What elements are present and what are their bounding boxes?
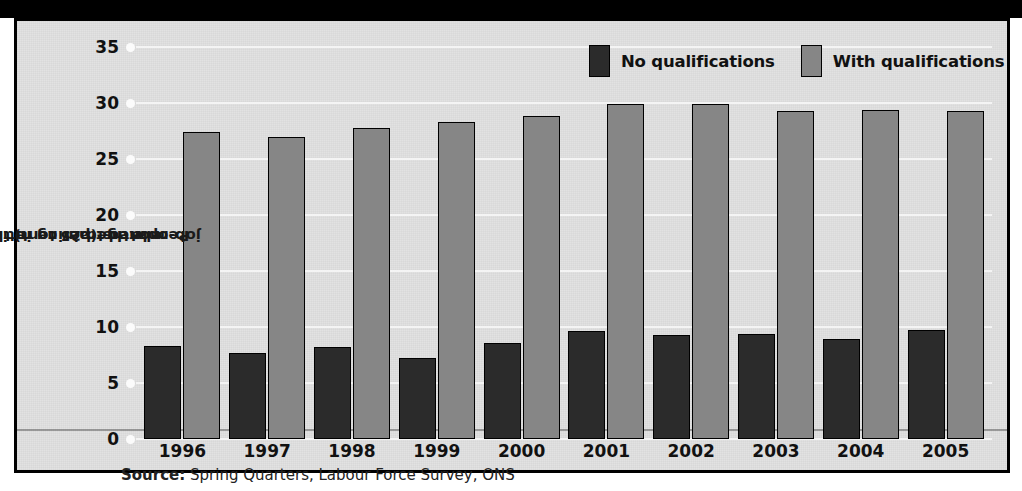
bar-no-qualifications[interactable] (399, 358, 436, 439)
bar-with-qualifications[interactable] (862, 110, 899, 439)
x-axis-label: 1998 (310, 441, 395, 461)
source-note: Source: Spring Quarters, Labour Force Su… (121, 466, 515, 484)
x-axis-label: 1996 (140, 441, 225, 461)
bar-with-qualifications[interactable] (692, 104, 729, 439)
bar-with-qualifications[interactable] (183, 132, 220, 439)
bar-with-qualifications[interactable] (777, 111, 814, 439)
x-axis-label: 1997 (225, 441, 310, 461)
y-axis-title-line-3: months (per cent) (0, 225, 272, 246)
bar-group (310, 47, 395, 439)
y-tick-dot (126, 211, 135, 220)
bar-with-qualifications[interactable] (947, 111, 984, 439)
bar-no-qualifications[interactable] (568, 331, 605, 439)
bar-no-qualifications[interactable] (653, 335, 690, 439)
bar-group (903, 47, 988, 439)
bar-group (734, 47, 819, 439)
bar-group (564, 47, 649, 439)
y-tick-label: 5 (107, 373, 119, 393)
y-tick-label: 0 (107, 429, 119, 449)
bar-no-qualifications[interactable] (314, 347, 351, 439)
x-axis-label: 2005 (903, 441, 988, 461)
y-tick-dot (126, 155, 135, 164)
bar-with-qualifications[interactable] (353, 128, 390, 439)
x-axis-label: 2002 (649, 441, 734, 461)
bar-no-qualifications[interactable] (823, 339, 860, 439)
bar-group (649, 47, 734, 439)
y-tick-dot (126, 267, 135, 276)
bar-no-qualifications[interactable] (484, 343, 521, 439)
legend-label-no-qualifications: No qualifications (621, 52, 775, 71)
bar-no-qualifications[interactable] (908, 330, 945, 439)
y-tick-dot (126, 99, 135, 108)
x-axis-label: 2003 (734, 441, 819, 461)
chart-figure: No qualifications With qualifications Pe… (14, 18, 1010, 473)
bar-with-qualifications[interactable] (438, 122, 475, 439)
bar-no-qualifications[interactable] (738, 334, 775, 439)
bar-no-qualifications[interactable] (144, 346, 181, 439)
bar-no-qualifications[interactable] (229, 353, 266, 439)
bar-group (818, 47, 903, 439)
top-black-band (0, 0, 1022, 18)
bar-with-qualifications[interactable] (607, 104, 644, 439)
source-text: Spring Quarters, Labour Force Survey, ON… (185, 466, 515, 484)
y-tick-dot (126, 323, 135, 332)
source-prefix: Source: (121, 466, 185, 484)
x-axis-label: 1999 (394, 441, 479, 461)
bar-with-qualifications[interactable] (268, 137, 305, 439)
x-axis-label: 2001 (564, 441, 649, 461)
chart-legend: No qualifications With qualifications (589, 45, 1004, 77)
x-axis-label: 2000 (479, 441, 564, 461)
y-tick-dot (126, 43, 135, 52)
x-axis-label: 2004 (818, 441, 903, 461)
dark-swatch-icon (589, 45, 610, 77)
legend-item-no-qualifications[interactable]: No qualifications (589, 45, 775, 77)
x-axis-labels: 1996199719981999200020012002200320042005 (136, 441, 992, 461)
y-tick-dot (126, 379, 135, 388)
bar-group (394, 47, 479, 439)
legend-label-with-qualifications: With qualifications (833, 52, 1005, 71)
chart-screenshot: No qualifications With qualifications Pe… (0, 0, 1022, 491)
bar-with-qualifications[interactable] (523, 116, 560, 439)
bar-group (479, 47, 564, 439)
y-tick-dot (126, 435, 135, 444)
legend-item-with-qualifications[interactable]: With qualifications (801, 45, 1005, 77)
gray-swatch-icon (801, 45, 822, 77)
y-axis-title: People aged 25 to retirement who receive… (23, 35, 75, 435)
